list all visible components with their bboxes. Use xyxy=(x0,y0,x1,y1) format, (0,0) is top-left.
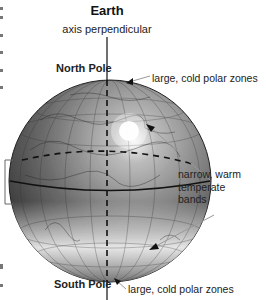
temperate-line-1: narrow, warm xyxy=(178,168,241,181)
polar-zone-top-label: large, cold polar zones xyxy=(152,72,258,84)
temperate-line-3: bands xyxy=(178,193,241,206)
polar-zone-bottom-label: large, cold polar zones xyxy=(128,283,234,295)
cropped-text-fragment xyxy=(0,284,3,287)
north-pole-label: North Pole xyxy=(56,62,112,74)
temperate-bands-label: narrow, warm temperate bands xyxy=(178,168,241,206)
axis-label: axis perpendicular xyxy=(0,23,214,35)
earth-diagram xyxy=(0,0,266,300)
south-pole-label: South Pole xyxy=(54,278,111,290)
cropped-text-fragment xyxy=(0,264,3,269)
temperate-line-2: temperate xyxy=(178,181,241,194)
diagram-title: Earth xyxy=(0,5,214,17)
cropped-text-fragment xyxy=(0,51,3,54)
cropped-text-fragment xyxy=(0,86,3,89)
cropped-text-fragment xyxy=(0,69,3,72)
